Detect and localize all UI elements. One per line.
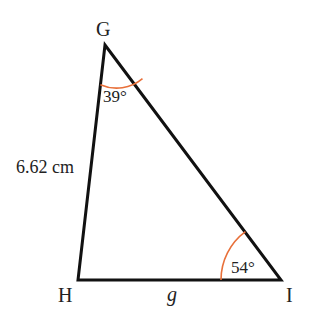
vertex-label-h: H — [58, 284, 72, 306]
angle-label-g: 39° — [103, 87, 127, 106]
side-label-gh: 6.62 cm — [16, 157, 74, 177]
angle-label-i: 54° — [231, 258, 255, 277]
triangle-ghi — [78, 45, 281, 280]
vertex-label-i: I — [286, 284, 293, 306]
side-label-hi: g — [167, 283, 177, 306]
vertex-label-g: G — [96, 18, 110, 40]
triangle-diagram: G H I 39° 54° 6.62 cm g — [0, 0, 316, 323]
